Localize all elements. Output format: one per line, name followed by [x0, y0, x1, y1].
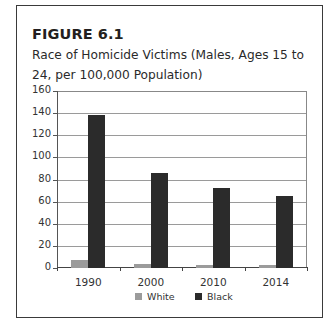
x-tick — [245, 267, 246, 271]
x-tick-label: 2014 — [245, 276, 307, 288]
y-tick-label: 80 — [18, 173, 51, 184]
bar-white-2014 — [259, 265, 276, 268]
y-tick-label: 100 — [18, 150, 51, 161]
legend: White Black — [0, 291, 332, 305]
y-tick-label: 20 — [18, 239, 51, 250]
x-tick — [307, 267, 308, 271]
y-tick — [53, 157, 58, 158]
gridline — [58, 113, 306, 114]
x-tick — [120, 267, 121, 271]
x-tick — [57, 267, 58, 271]
legend-swatch-black — [195, 293, 202, 300]
legend-item-white: White — [135, 291, 175, 302]
x-tick-label: 1990 — [57, 276, 119, 288]
y-tick — [53, 135, 58, 136]
x-tick-label: 2010 — [182, 276, 244, 288]
bar-black-1990 — [88, 115, 105, 268]
bar-white-1990 — [71, 260, 88, 268]
y-tick — [53, 91, 58, 92]
x-tick — [182, 267, 183, 271]
bar-black-2000 — [151, 173, 168, 268]
chart-title: Race of Homicide Victims (Males, Ages 15… — [32, 45, 317, 85]
figure-label: FIGURE 6.1 — [32, 26, 124, 42]
y-tick — [53, 224, 58, 225]
y-tick — [53, 202, 58, 203]
legend-swatch-white — [135, 293, 142, 300]
legend-label-white: White — [147, 291, 175, 302]
y-tick-label: 40 — [18, 217, 51, 228]
y-tick-label: 160 — [18, 84, 51, 95]
bar-black-2010 — [213, 188, 230, 268]
y-tick-label: 140 — [18, 106, 51, 117]
y-tick-label: 60 — [18, 195, 51, 206]
y-tick-label: 0 — [18, 261, 51, 272]
legend-label-black: Black — [207, 291, 233, 302]
x-tick-label: 2000 — [120, 276, 182, 288]
bar-white-2010 — [196, 265, 213, 268]
y-tick — [53, 180, 58, 181]
y-tick-label: 120 — [18, 128, 51, 139]
y-tick — [53, 246, 58, 247]
legend-item-black: Black — [195, 291, 233, 302]
bar-black-2014 — [276, 196, 293, 268]
bar-white-2000 — [134, 264, 151, 268]
y-tick — [53, 113, 58, 114]
